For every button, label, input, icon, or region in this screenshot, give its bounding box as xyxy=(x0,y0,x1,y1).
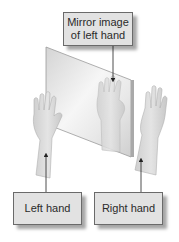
label-right-hand: Right hand xyxy=(94,192,163,225)
label-mirror-image-line2: of left hand xyxy=(67,29,129,42)
label-left-hand: Left hand xyxy=(13,192,82,225)
label-left-hand-text: Left hand xyxy=(25,202,71,215)
right-hand xyxy=(135,86,167,175)
label-mirror-image-line1: Mirror image xyxy=(67,16,129,29)
label-right-hand-text: Right hand xyxy=(102,202,155,215)
label-mirror-image: Mirror image of left hand xyxy=(63,12,133,46)
